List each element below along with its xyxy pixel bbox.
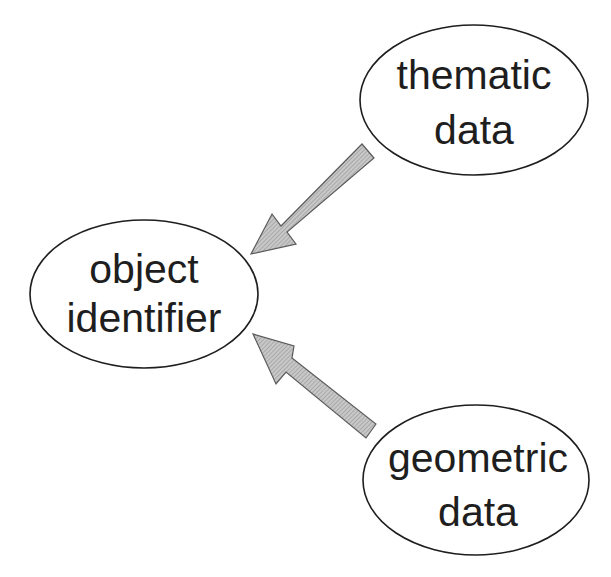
arrow-thematic-to-object xyxy=(251,144,374,254)
diagram-canvas: object identifier thematic data geometri… xyxy=(0,0,611,577)
label-thematic: thematic xyxy=(397,52,552,98)
label-geometric: geometric xyxy=(388,435,568,481)
node-object-identifier: object identifier xyxy=(30,220,258,368)
label-thematic-data: data xyxy=(434,107,514,153)
label-object: object xyxy=(89,246,199,292)
ellipse-object-identifier xyxy=(30,220,258,368)
node-geometric-data: geometric data xyxy=(363,405,589,555)
node-thematic-data: thematic data xyxy=(360,25,588,175)
label-geometric-data: data xyxy=(438,489,518,535)
arrow-geometric-to-object xyxy=(253,334,376,438)
label-identifier: identifier xyxy=(67,295,222,341)
